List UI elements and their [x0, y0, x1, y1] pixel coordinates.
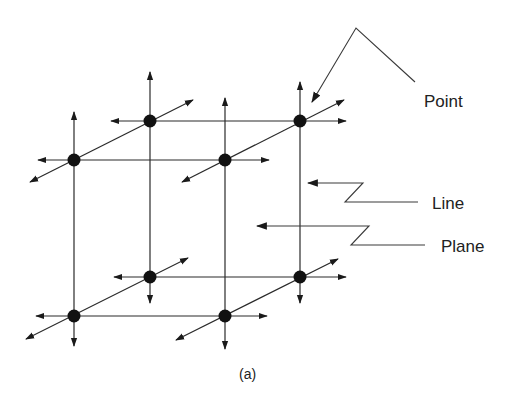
point-bottom-back-right — [294, 271, 307, 284]
lattice-diagram: Point Line Plane (a) — [0, 0, 516, 394]
point-bottom-back-left — [144, 271, 157, 284]
point-top-front-left — [68, 154, 81, 167]
figure-caption: (a) — [239, 366, 256, 382]
point-top-back-left — [144, 115, 157, 128]
plane-leader-line — [257, 226, 425, 245]
point-top-front-right — [219, 154, 232, 167]
diagonal-line-bottom-left — [26, 258, 188, 339]
point-bottom-front-right — [219, 310, 232, 323]
callout-line: Line — [308, 183, 464, 213]
label-line: Line — [432, 194, 464, 213]
vertical-lines — [74, 72, 300, 349]
label-point: Point — [424, 92, 463, 111]
diagonal-line-top-right — [182, 100, 344, 182]
callout-point: Point — [312, 28, 463, 111]
callout-plane: Plane — [257, 226, 484, 256]
line-leader-line — [308, 183, 418, 202]
point-leader-line — [312, 28, 415, 102]
label-plane: Plane — [441, 237, 484, 256]
point-top-back-right — [294, 115, 307, 128]
point-bottom-front-left — [68, 310, 81, 323]
diagonal-line-top-left — [30, 100, 193, 182]
diagonal-line-bottom-right — [176, 259, 338, 340]
